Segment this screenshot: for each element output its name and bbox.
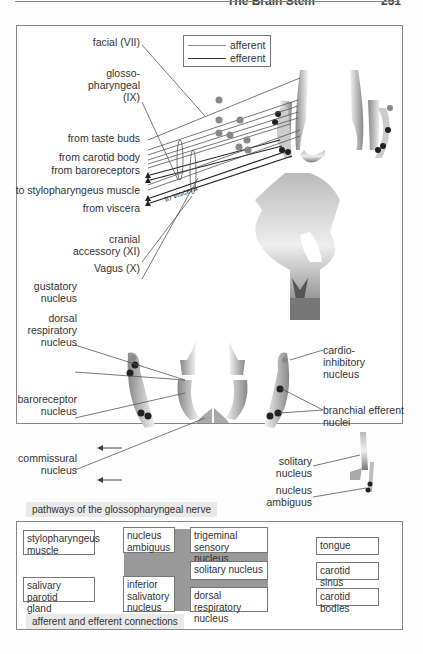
label-dorsal-1: dorsal [48, 312, 77, 324]
label-cranial-2: accessory (XI) [73, 245, 140, 257]
label-cardio-3: nucleus [323, 368, 359, 380]
brainstem-section-enlarged [127, 340, 290, 428]
trigeminal-sensory-box: trigeminal sensorynucleus [190, 527, 268, 553]
legend: afferent efferent [183, 35, 271, 67]
label-taste-buds: from taste buds [68, 132, 140, 144]
label-glosso-1: glosso- [106, 67, 140, 79]
target-parotid: salivary parotidgland [23, 577, 95, 602]
legend-afferent: afferent [188, 39, 268, 51]
label-glosso-3: (IX) [123, 91, 140, 103]
dorsal-respiratory-box: dorsal respiratorynucleus [190, 587, 268, 612]
solitary-nucleus-box: solitary nucleus [190, 561, 268, 580]
source-carotid-sinus: carotid sinus [316, 562, 379, 580]
label-ambiguus-2: ambiguus [266, 496, 312, 508]
source-carotid-bodies: carotid bodies [316, 588, 379, 606]
label-dorsal-2: respiratory [27, 324, 77, 336]
caption-pathways: pathways of the glossopharyngeal nerve [26, 502, 217, 517]
label-branchial-2: nuclei [323, 416, 350, 428]
label-vagus: Vagus (X) [94, 262, 140, 274]
label-commissural-2: nucleus [41, 464, 77, 476]
nucleus-ambiguus-box: nucleusambiguus [123, 527, 175, 553]
label-ambiguus-1: nucleus [276, 484, 312, 496]
label-baroreceptor-2: nucleus [41, 405, 77, 417]
label-dorsal-3: nucleus [41, 336, 77, 348]
label-gustatory-2: nucleus [41, 292, 77, 304]
label-branchial-1: branchial efferent [323, 404, 404, 416]
inferior-salivatory-box: inferiorsalivatorynucleus [123, 576, 175, 612]
label-cranial-1: cranial [109, 233, 140, 245]
afferent-swatch [188, 45, 226, 46]
brainstem-section-mini [350, 432, 374, 493]
label-carotid-body: from carotid body [59, 151, 140, 163]
label-cardio-2: inhibitory [323, 356, 365, 368]
efferent-swatch [188, 58, 226, 59]
brainstem-dorsal-view [255, 173, 340, 320]
label-viscera: from viscera [83, 202, 140, 214]
label-baroreceptors: from baroreceptors [51, 164, 140, 176]
label-baroreceptor-1: baroreceptor [17, 393, 77, 405]
label-facial: facial (VII) [93, 36, 140, 48]
label-glosso-2: pharyngeal [88, 79, 140, 91]
label-gustatory-1: gustatory [34, 280, 77, 292]
caption-connections: afferent and efferent connections [26, 614, 184, 629]
label-solitary-1: solitary [279, 455, 312, 467]
legend-efferent: efferent [188, 52, 268, 64]
target-stylopharyngeus: stylopharyngeusmuscle [23, 530, 95, 555]
source-tongue: tongue [316, 537, 379, 555]
label-cardio-1: cardio- [323, 344, 355, 356]
label-solitary-2: nucleus [276, 467, 312, 479]
brainstem-section-top [272, 70, 393, 163]
label-commissural-1: commissural [18, 452, 77, 464]
label-stylopharyngeus: to stylopharyngeus muscle [16, 184, 140, 196]
